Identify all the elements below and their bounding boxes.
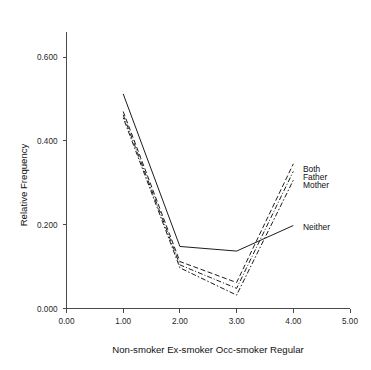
y-tick-label: 0.000: [37, 305, 58, 314]
y-tick-label: 0.400: [37, 137, 58, 146]
series-label-mother: Mother: [303, 180, 329, 190]
x-axis-title: Non-smoker Ex-smoker Occ-smoker Regular: [112, 344, 304, 355]
x-tick-label: 1.00: [115, 317, 131, 326]
series-line-neither: [123, 94, 293, 251]
x-tick-label: 5.00: [342, 317, 358, 326]
series-line-both: [123, 111, 293, 282]
series-line-father: [123, 115, 293, 289]
x-tick-label: 3.00: [229, 317, 245, 326]
x-axis-group: 0.001.002.003.004.005.00 Non-smoker Ex-s…: [59, 309, 359, 356]
x-tick-group: 0.001.002.003.004.005.00: [59, 309, 359, 326]
y-tick-label: 0.600: [37, 53, 58, 62]
chart-container: 0.0000.2000.4000.600 Relative Frequency …: [0, 0, 371, 370]
x-tick-label: 0.00: [59, 317, 75, 326]
series-line-mother: [123, 118, 293, 295]
y-axis-title: Relative Frequency: [18, 143, 29, 226]
series-label-neither: Neither: [303, 222, 330, 232]
series-path-group: [123, 94, 293, 295]
y-axis-group: 0.0000.2000.4000.600 Relative Frequency: [18, 32, 67, 314]
series-label-group: NeitherBothFatherMother: [303, 164, 330, 232]
line-chart-svg: 0.0000.2000.4000.600 Relative Frequency …: [0, 0, 371, 370]
x-tick-label: 2.00: [172, 317, 188, 326]
x-tick-label: 4.00: [285, 317, 301, 326]
y-tick-label: 0.200: [37, 221, 58, 230]
y-tick-group: 0.0000.2000.4000.600: [37, 53, 67, 314]
